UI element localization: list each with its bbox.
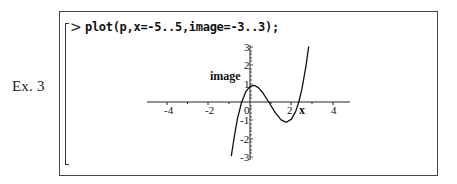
- y-tick-label: 3: [244, 41, 250, 53]
- x-tick-label: 2: [287, 104, 293, 116]
- y-tick-label: 2: [244, 59, 250, 71]
- x-tick-label: -4: [164, 104, 174, 116]
- y-tick-label: -2: [240, 133, 249, 145]
- y-tick-label: -3: [240, 151, 250, 163]
- plot-output: -4 -2 0 2 4 x 3 2 1 -1 -2 -3 image: [0, 0, 457, 184]
- x-axis-label: x: [299, 103, 305, 117]
- x-tick-label: 4: [331, 104, 337, 116]
- y-tick-label: -1: [240, 114, 249, 126]
- y-axis-label: image: [210, 69, 241, 83]
- x-tick-label: -2: [205, 104, 214, 116]
